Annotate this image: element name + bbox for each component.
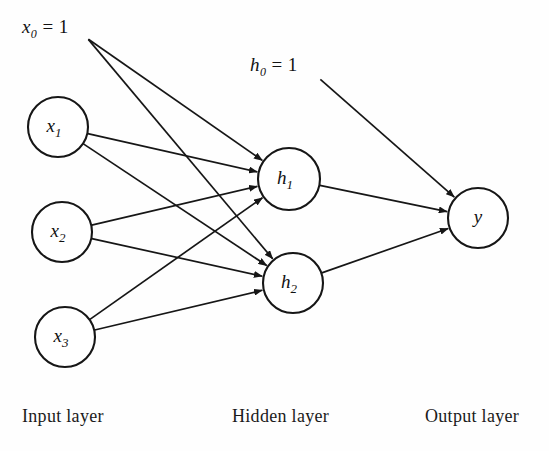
- node-h2[interactable]: h2: [263, 253, 323, 313]
- bias-label-x0: x0 = 1: [22, 16, 69, 42]
- node-h1[interactable]: h1: [258, 148, 320, 210]
- edge-h2-to-y: [322, 228, 449, 272]
- layer-label-output: Output layer: [425, 406, 519, 427]
- node-x1[interactable]: x1: [28, 97, 88, 157]
- node-label-y: y: [472, 206, 483, 227]
- node-x3[interactable]: x3: [35, 307, 95, 367]
- edge-x3-to-h2: [95, 290, 263, 330]
- edge-h0-to-y: [320, 79, 454, 197]
- node-x2[interactable]: x2: [32, 202, 92, 262]
- node-y[interactable]: y: [448, 188, 508, 248]
- edge-h1-to-y: [320, 185, 447, 211]
- edge-x3-to-h1: [90, 198, 263, 320]
- neural-network-diagram: x1x2x3h1h2y x0 = 1 h0 = 1 Input layer Hi…: [0, 0, 549, 451]
- layer-label-hidden: Hidden layer: [232, 406, 329, 427]
- bias-label-h0: h0 = 1: [250, 54, 298, 80]
- edge-x1-to-h2: [83, 144, 266, 266]
- layer-label-input: Input layer: [22, 406, 104, 427]
